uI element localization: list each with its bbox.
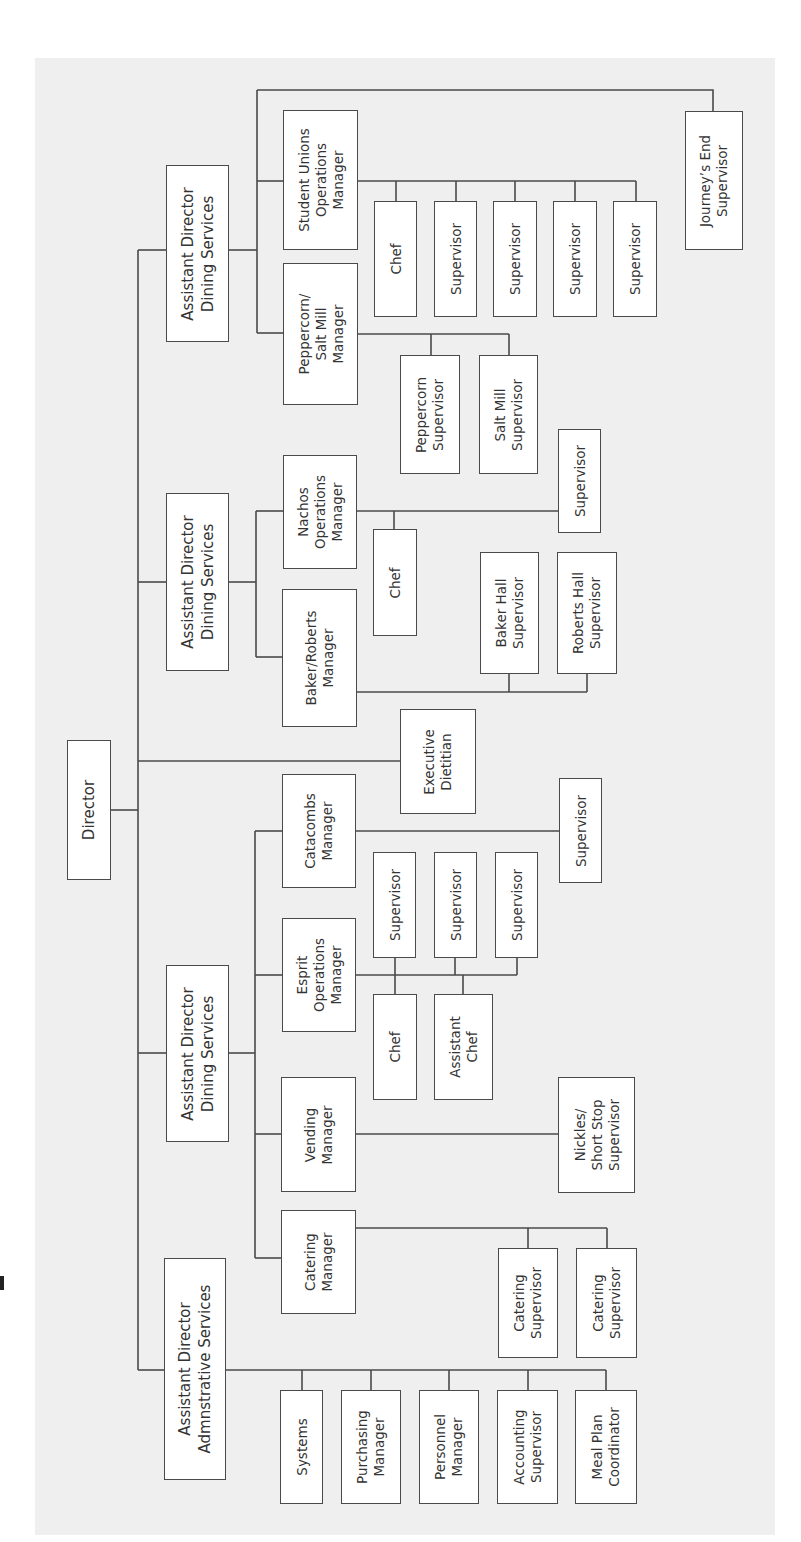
org-node-label: Supervisor — [386, 869, 403, 941]
org-node-label: Purchasing Manager — [354, 1410, 388, 1484]
org-node-label: Nickles/ Short Stop Supervisor — [571, 1099, 622, 1171]
org-node-esprit-supervisor-2: Supervisor — [434, 852, 477, 958]
org-node-peppercorn-salt-mill-manager: Peppercorn/ Salt Mill Manager — [283, 263, 358, 405]
org-node-label: Assistant Director Dining Services — [178, 515, 218, 648]
org-node-baker-roberts-manager: Baker/Roberts Manager — [282, 589, 357, 727]
org-node-label: Assistant Director Admnstrative Services — [175, 1285, 215, 1454]
org-node-label: Systems — [293, 1418, 310, 1475]
org-node-label: Personnel Manager — [432, 1414, 466, 1480]
org-node-label: Supervisor — [567, 223, 584, 295]
org-node-label: Chef — [387, 1031, 404, 1062]
org-node-label: Supervisor — [447, 869, 464, 941]
org-node-label: Catering Supervisor — [511, 1267, 545, 1339]
org-node-label: Nachos Operations Manager — [295, 475, 346, 549]
org-node-label: Supervisor — [572, 794, 589, 866]
org-node-label: Peppercorn/ Salt Mill Manager — [295, 294, 346, 375]
org-node-ad-dining-3: Assistant Director Dining Services — [166, 965, 229, 1142]
org-node-catacombs-supervisor: Supervisor — [559, 778, 602, 883]
org-node-director: Director — [67, 740, 111, 880]
org-node-label: Supervisor — [627, 223, 644, 295]
org-node-label: Assistant Chef — [447, 1016, 481, 1078]
org-node-label: Assistant Director Dining Services — [178, 187, 218, 320]
org-node-label: Chef — [387, 567, 404, 598]
org-node-catering-supervisor-2: Catering Supervisor — [576, 1248, 637, 1358]
org-node-su-supervisor-2: Supervisor — [493, 201, 537, 317]
org-node-peppercorn-supervisor: Peppercorn Supervisor — [400, 355, 460, 474]
org-node-label: Catering Supervisor — [590, 1267, 624, 1339]
org-node-catering-supervisor-1: Catering Supervisor — [498, 1248, 558, 1358]
org-node-meal-plan-coordinator: Meal Plan Coordinator — [575, 1390, 637, 1504]
org-node-label: Student Unions Operations Manager — [295, 128, 346, 231]
org-node-ad-admin: Assistant Director Admnstrative Services — [164, 1258, 226, 1480]
org-node-label: Meal Plan Coordinator — [589, 1407, 623, 1487]
org-node-nachos-ops-manager: Nachos Operations Manager — [283, 455, 357, 569]
org-node-student-unions-ops-manager: Student Unions Operations Manager — [283, 110, 358, 250]
org-node-label: Salt Mill Supervisor — [492, 378, 526, 450]
org-node-esprit-ops-manager: Esprit Operations Manager — [282, 918, 356, 1032]
org-node-label: Executive Dietitian — [421, 729, 455, 795]
org-node-su-supervisor-4: Supervisor — [613, 201, 657, 317]
org-node-personnel-manager: Personnel Manager — [419, 1390, 479, 1504]
org-node-label: Supervisor — [507, 223, 524, 295]
org-node-vending-manager: Vending Manager — [281, 1077, 356, 1192]
org-node-catering-manager: Catering Manager — [281, 1210, 356, 1314]
org-node-su-supervisor-3: Supervisor — [553, 201, 597, 317]
org-node-label: Baker Hall Supervisor — [493, 577, 527, 649]
org-node-label: Roberts Hall Supervisor — [570, 572, 604, 654]
org-node-purchasing-manager: Purchasing Manager — [341, 1390, 401, 1504]
org-node-esprit-assistant-chef: Assistant Chef — [434, 994, 493, 1100]
org-node-label: Vending Manager — [302, 1105, 336, 1164]
org-node-catacombs-manager: Catacombs Manager — [282, 774, 356, 888]
org-node-label: Journey’s End Supervisor — [697, 134, 731, 226]
org-node-journeys-end-supervisor: Journey’s End Supervisor — [685, 111, 743, 250]
org-node-label: Supervisor — [447, 223, 464, 295]
org-node-esprit-chef: Chef — [373, 994, 417, 1100]
org-node-nickles-short-stop-supervisor: Nickles/ Short Stop Supervisor — [558, 1077, 635, 1193]
org-node-label: Baker/Roberts Manager — [303, 610, 337, 705]
org-node-label: Assistant Director Dining Services — [178, 987, 218, 1120]
org-node-label: Supervisor — [571, 445, 588, 517]
org-node-roberts-hall-supervisor: Roberts Hall Supervisor — [557, 552, 617, 674]
org-node-systems: Systems — [280, 1390, 323, 1504]
org-node-label: Chef — [387, 243, 404, 274]
org-node-label: Director — [79, 780, 99, 840]
org-node-label: Esprit Operations Manager — [294, 938, 345, 1012]
org-node-nachos-supervisor: Supervisor — [558, 429, 601, 533]
org-node-label: Supervisor — [508, 869, 525, 941]
org-node-salt-mill-supervisor: Salt Mill Supervisor — [479, 355, 538, 474]
org-node-label: Peppercorn Supervisor — [413, 376, 447, 452]
org-node-accounting-supervisor: Accounting Supervisor — [497, 1390, 558, 1504]
org-node-nachos-chef: Chef — [373, 529, 417, 636]
org-node-su-chef: Chef — [374, 201, 417, 317]
org-node-label: Accounting Supervisor — [511, 1409, 545, 1484]
org-node-esprit-supervisor-1: Supervisor — [373, 852, 416, 958]
org-node-baker-hall-supervisor: Baker Hall Supervisor — [480, 552, 539, 674]
org-node-ad-dining-2: Assistant Director Dining Services — [166, 493, 229, 671]
org-node-su-supervisor-1: Supervisor — [434, 201, 477, 317]
org-node-label: Catacombs Manager — [302, 793, 336, 869]
org-node-label: Catering Manager — [302, 1232, 336, 1291]
org-node-esprit-supervisor-3: Supervisor — [495, 852, 538, 958]
connector-sub-spine-1-to-journeys-end-supervisor — [257, 90, 713, 111]
org-node-executive-dietitian: Executive Dietitian — [400, 709, 476, 814]
org-node-ad-dining-1: Assistant Director Dining Services — [166, 165, 229, 342]
